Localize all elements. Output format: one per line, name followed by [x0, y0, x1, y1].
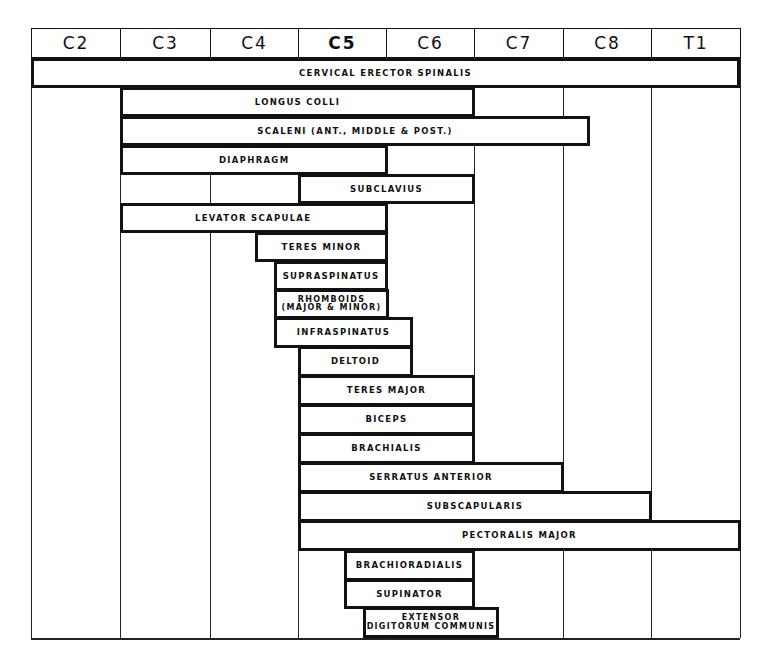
muscle-bar-extensor-digitorum-communis: EXTENSOR DIGITORUM COMMUNIS	[363, 607, 499, 638]
header-cell-c7: C7	[474, 28, 564, 58]
muscle-bar-teres-minor: TERES MINOR	[255, 232, 388, 262]
muscle-bar-scaleni-ant-middle-post: SCALENI (ANT., MIDDLE & POST.)	[120, 116, 590, 146]
muscle-bar-cervical-erector-spinalis: CERVICAL ERECTOR SPINALIS	[31, 58, 740, 88]
muscle-bar-serratus-anterior: SERRATUS ANTERIOR	[298, 462, 564, 493]
header-cell-c6: C6	[386, 28, 475, 58]
muscle-bar-biceps: BICEPS	[298, 404, 475, 435]
muscle-bar-subclavius: SUBCLAVIUS	[298, 174, 475, 204]
header-cell-c5: C5	[298, 28, 387, 58]
muscle-bar-pectoralis-major: PECTORALIS MAJOR	[298, 520, 741, 551]
muscle-bar-rhomboids-major-minor: RHOMBOIDS (MAJOR & MINOR)	[274, 289, 389, 319]
muscle-bar-infraspinatus: INFRASPINATUS	[274, 317, 413, 348]
muscle-bar-teres-major: TERES MAJOR	[298, 375, 475, 406]
innervation-chart: C2C3C4C5C6C7C8T1 CERVICAL ERECTOR SPINAL…	[0, 0, 766, 668]
muscle-bar-levator-scapulae: LEVATOR SCAPULAE	[120, 203, 388, 233]
muscle-bar-supinator: SUPINATOR	[344, 579, 475, 609]
muscle-bar-diaphragm: DIAPHRAGM	[120, 145, 388, 175]
header-cell-c4: C4	[210, 28, 299, 58]
muscle-bar-subscapularis: SUBSCAPULARIS	[298, 491, 652, 522]
grid-line	[31, 57, 33, 638]
header-cell-c8: C8	[563, 28, 652, 58]
muscle-bar-longus-colli: LONGUS COLLI	[120, 87, 475, 117]
muscle-bar-brachialis: BRACHIALIS	[298, 433, 475, 464]
muscle-bar-deltoid: DELTOID	[298, 346, 413, 377]
grid-bottom-line	[31, 638, 740, 640]
muscle-bar-supraspinatus: SUPRASPINATUS	[274, 261, 388, 291]
header-cell-c2: C2	[31, 28, 121, 58]
header-cell-t1: T1	[651, 28, 741, 58]
muscle-bar-brachioradialis: BRACHIORADIALIS	[344, 550, 475, 581]
header-cell-c3: C3	[120, 28, 211, 58]
